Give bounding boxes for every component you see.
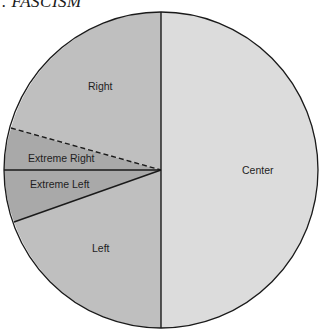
label-right: Right [88,80,113,92]
label-extreme-right: Extreme Right [28,152,95,164]
label-left: Left [92,242,110,254]
label-extreme-left: Extreme Left [30,178,90,190]
slice-center [161,12,318,328]
label-center: Center [242,164,274,176]
pie-chart: Right Center Extreme Right Extreme Left … [0,0,322,332]
